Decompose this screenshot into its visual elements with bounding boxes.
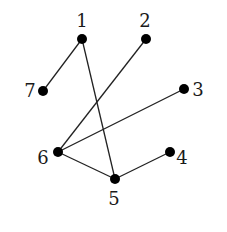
nodes-group xyxy=(38,34,189,184)
node-label-5: 5 xyxy=(108,188,119,209)
edge-6-5 xyxy=(58,152,115,179)
edge-2-6 xyxy=(58,39,146,152)
node-label-4: 4 xyxy=(176,147,187,168)
node-label-7: 7 xyxy=(24,80,35,101)
node-label-1: 1 xyxy=(76,10,87,31)
node-7 xyxy=(38,86,48,96)
graph-canvas: 1234567 xyxy=(0,0,227,232)
edge-1-5 xyxy=(82,39,115,179)
edge-3-6 xyxy=(58,89,184,152)
graph-diagram: 1234567 xyxy=(0,0,227,232)
node-4 xyxy=(165,147,175,157)
edge-5-4 xyxy=(115,152,170,179)
node-2 xyxy=(141,34,151,44)
node-label-6: 6 xyxy=(37,147,48,168)
node-5 xyxy=(110,174,120,184)
node-label-2: 2 xyxy=(139,10,150,31)
node-1 xyxy=(77,34,87,44)
node-6 xyxy=(53,147,63,157)
edge-1-7 xyxy=(43,39,82,91)
edges-group xyxy=(43,39,184,179)
node-label-3: 3 xyxy=(192,79,203,100)
node-3 xyxy=(179,84,189,94)
